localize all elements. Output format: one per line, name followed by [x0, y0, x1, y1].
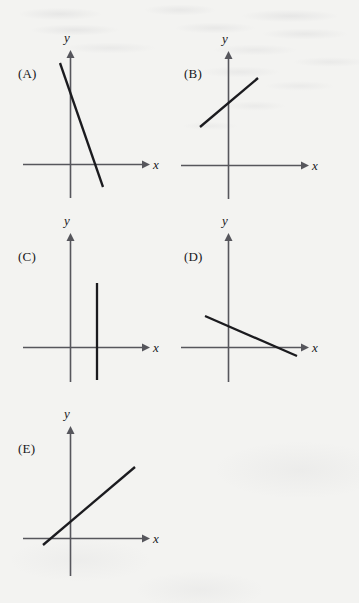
panel-e-label: (E) [18, 441, 35, 457]
panel-e-plot [0, 0, 359, 603]
panel-e-y-axis-label: y [64, 406, 70, 422]
panel-e-x-arrowhead [142, 535, 150, 543]
figure-page: (A) x y (B) x y (C) x y [0, 0, 359, 603]
panel-e-x-axis-label: x [153, 531, 159, 547]
panel-e-y-arrowhead [67, 426, 75, 434]
panel-e-data-line [43, 467, 135, 545]
